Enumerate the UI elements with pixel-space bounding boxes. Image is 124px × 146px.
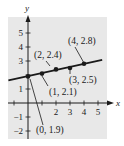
x-tick-label: 5 bbox=[96, 107, 101, 117]
y-axis-label: y bbox=[24, 3, 29, 13]
x-tick-label: 2 bbox=[54, 107, 59, 117]
y-tick-label: 5 bbox=[19, 28, 24, 38]
x-tick-label: 3 bbox=[68, 107, 73, 117]
data-point bbox=[40, 71, 45, 76]
point-label: (4, 2.8) bbox=[68, 36, 96, 47]
data-point bbox=[54, 67, 59, 72]
y-tick-label: 3 bbox=[19, 56, 24, 66]
point-label: (2, 2.4) bbox=[34, 50, 62, 61]
x-axis-label: x bbox=[115, 98, 120, 108]
y-tick-label: −1 bbox=[13, 112, 23, 122]
point-label: (3, 2.5) bbox=[69, 75, 97, 86]
point-label: (0, 1.9) bbox=[36, 125, 64, 136]
x-axis-arrow-icon bbox=[107, 101, 114, 106]
y-tick-label: −2 bbox=[13, 126, 23, 136]
scatter-plot-with-line: xy 23455431−1−2 (0, 1.9)(1, 2.1)(2, 2.4)… bbox=[0, 0, 124, 146]
data-point bbox=[26, 74, 31, 79]
y-tick-label: 1 bbox=[19, 84, 24, 94]
point-label: (1, 2.1) bbox=[49, 87, 77, 98]
x-tick-label: 4 bbox=[82, 107, 87, 117]
data-point bbox=[68, 66, 73, 71]
y-tick-label: 4 bbox=[19, 42, 24, 52]
